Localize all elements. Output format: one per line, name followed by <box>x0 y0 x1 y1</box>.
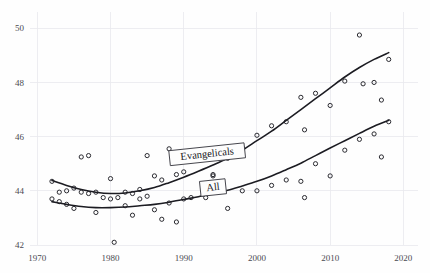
scatter-plot-svg: EvangelicalsAll 424446485019701980199020… <box>0 0 430 273</box>
data-point-marker <box>94 210 98 214</box>
x-axis-tick-label: 2000 <box>248 253 267 263</box>
data-point-marker <box>313 162 317 166</box>
data-point-marker <box>302 195 306 199</box>
data-point-marker <box>372 132 376 136</box>
x-axis-tick-label: 1970 <box>28 253 47 263</box>
data-point-marker <box>79 155 83 159</box>
series-evangelicals <box>50 33 391 196</box>
y-axis-tick-label: 50 <box>15 23 25 33</box>
data-point-marker <box>387 57 391 61</box>
data-point-marker <box>50 197 54 201</box>
data-point-marker <box>130 213 134 217</box>
data-point-marker <box>160 217 164 221</box>
data-point-marker <box>284 178 288 182</box>
data-point-marker <box>379 98 383 102</box>
series-group <box>50 33 391 244</box>
data-point-marker <box>357 33 361 37</box>
data-point-marker <box>302 128 306 132</box>
data-point-marker <box>152 208 156 212</box>
data-point-marker <box>72 206 76 210</box>
data-point-marker <box>343 148 347 152</box>
data-point-marker <box>226 206 230 210</box>
data-point-marker <box>174 172 178 176</box>
data-point-marker <box>138 197 142 201</box>
data-point-marker <box>357 137 361 141</box>
data-point-marker <box>86 153 90 157</box>
gridlines-group <box>30 12 418 245</box>
data-point-marker <box>145 194 149 198</box>
x-axis-tick-label: 2010 <box>321 253 340 263</box>
x-axis-tick-label: 1990 <box>175 253 194 263</box>
data-point-marker <box>313 91 317 95</box>
data-point-marker <box>101 195 105 199</box>
all-callout: All <box>199 179 226 197</box>
data-point-marker <box>299 95 303 99</box>
y-axis-tick-label: 44 <box>15 186 25 196</box>
y-axis-tick-label: 42 <box>15 240 24 250</box>
data-point-marker <box>160 178 164 182</box>
callout-label: All <box>206 181 221 193</box>
data-point-marker <box>269 183 273 187</box>
data-point-marker <box>269 124 273 128</box>
data-point-marker <box>299 179 303 183</box>
y-axis-tick-label: 48 <box>15 78 25 88</box>
evangelicals-callout: Evangelicals <box>169 143 246 166</box>
chart-container: EvangelicalsAll 424446485019701980199020… <box>0 0 430 273</box>
x-axis-tick-label: 2020 <box>394 253 413 263</box>
data-point-marker <box>379 155 383 159</box>
x-axis-tick-label: 1980 <box>102 253 121 263</box>
y-axis-tick-label: 46 <box>15 132 25 142</box>
trend-line-evangelicals <box>52 53 389 194</box>
data-point-marker <box>152 174 156 178</box>
data-point-marker <box>112 240 116 244</box>
data-point-marker <box>174 220 178 224</box>
data-point-marker <box>116 195 120 199</box>
axis-labels-group: 4244464850197019801990200020102020 <box>15 23 413 263</box>
data-point-marker <box>145 153 149 157</box>
